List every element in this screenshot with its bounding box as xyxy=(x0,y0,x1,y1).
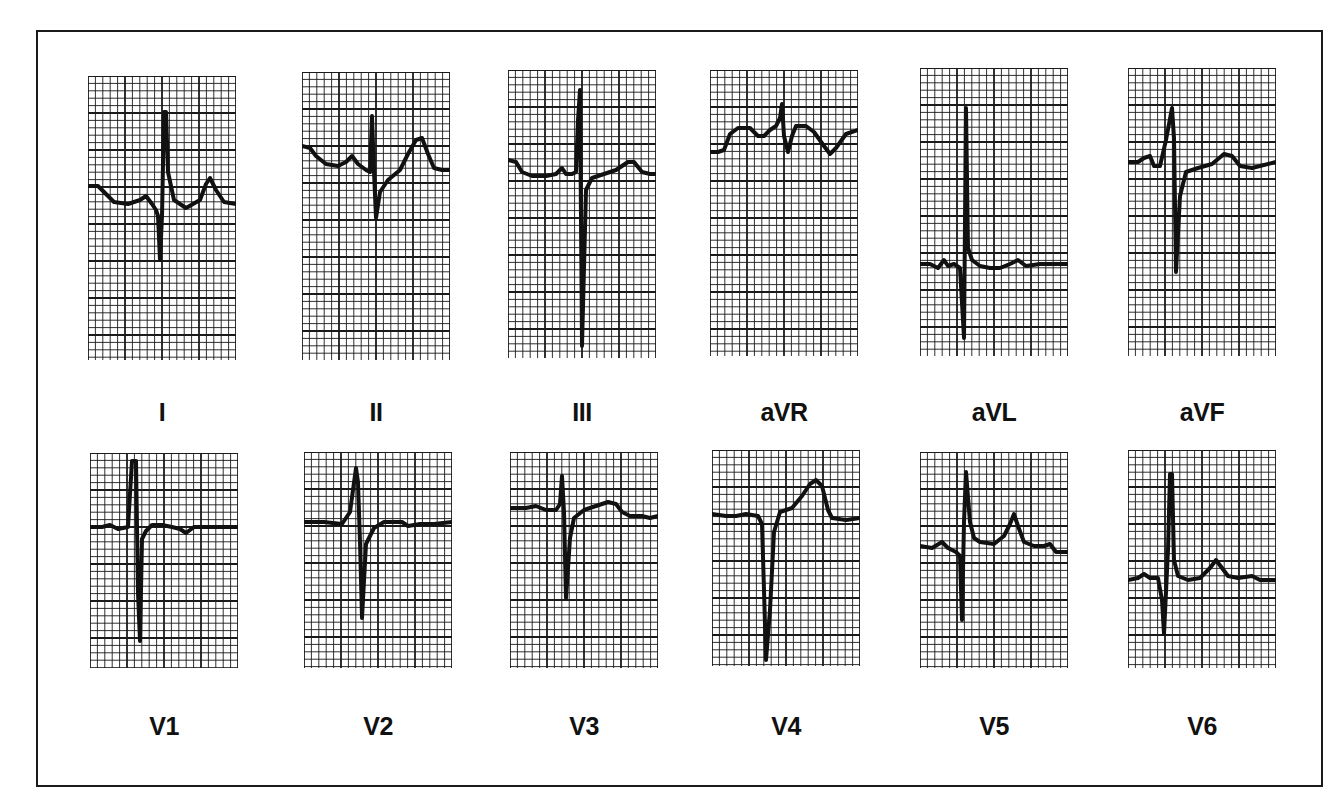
ecg-lead-v3 xyxy=(510,452,658,668)
lead-label: V3 xyxy=(509,712,659,741)
lead-label: V2 xyxy=(303,712,453,741)
ecg-grid xyxy=(712,450,860,666)
ecg-lead-v4 xyxy=(712,450,860,666)
ecg-grid xyxy=(88,76,236,360)
ecg-grid xyxy=(920,452,1068,668)
ecg-grid xyxy=(1128,68,1276,356)
ecg-lead-v6 xyxy=(1128,450,1276,668)
ecg-grid xyxy=(710,70,858,356)
ecg-lead-avf xyxy=(1128,68,1276,356)
ecg-lead-i xyxy=(88,76,236,360)
lead-label: V6 xyxy=(1127,712,1277,741)
ecg-grid xyxy=(90,453,238,668)
ecg-lead-avl xyxy=(920,68,1068,356)
lead-label: V1 xyxy=(89,712,239,741)
ecg-grid xyxy=(510,452,658,668)
lead-label: V4 xyxy=(711,712,861,741)
ecg-lead-iii xyxy=(508,70,656,358)
ecg-grid xyxy=(302,72,450,360)
ecg-grid xyxy=(304,452,452,668)
lead-label: V5 xyxy=(919,712,1069,741)
ecg-lead-v5 xyxy=(920,452,1068,668)
lead-label: aVR xyxy=(709,398,859,427)
lead-label: III xyxy=(507,398,657,427)
ecg-grid xyxy=(920,68,1068,356)
ecg-grid xyxy=(508,70,656,358)
lead-label: I xyxy=(87,398,237,427)
ecg-lead-ii xyxy=(302,72,450,360)
lead-label: aVF xyxy=(1127,398,1277,427)
lead-label: aVL xyxy=(919,398,1069,427)
ecg-grid xyxy=(1128,450,1276,668)
lead-label: II xyxy=(301,398,451,427)
ecg-lead-v1 xyxy=(90,453,238,668)
ecg-lead-v2 xyxy=(304,452,452,668)
ecg-lead-avr xyxy=(710,70,858,356)
